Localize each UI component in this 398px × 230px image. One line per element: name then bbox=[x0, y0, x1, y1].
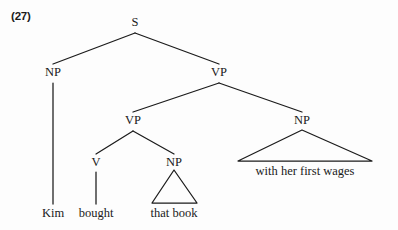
node-label-vp-top: VP bbox=[211, 66, 227, 79]
leaf-leaf-bought: bought bbox=[79, 207, 114, 220]
edge-s-to-vp-top bbox=[135, 33, 219, 64]
edge-vp-top-to-vp-inner bbox=[133, 83, 219, 112]
edge-vp-top-to-np-pp bbox=[219, 83, 302, 112]
node-label-v: V bbox=[91, 156, 100, 169]
triangle-tri-that-book bbox=[152, 170, 197, 203]
edge-vp-inner-to-v bbox=[96, 131, 133, 154]
triangle-tri-with-her-first-wages bbox=[238, 130, 372, 161]
leaf-leaf-kim: Kim bbox=[42, 207, 64, 220]
node-label-np-subj: NP bbox=[45, 66, 61, 79]
node-label-np-obj: NP bbox=[166, 156, 182, 169]
leaf-tri-with-her-first-wages: with her first wages bbox=[256, 165, 355, 178]
node-label-vp-inner: VP bbox=[125, 114, 141, 127]
node-label-np-pp: NP bbox=[294, 114, 310, 127]
tree-edges bbox=[53, 33, 302, 204]
leaf-tri-that-book: that book bbox=[151, 207, 198, 220]
edge-vp-inner-to-np-obj bbox=[133, 131, 174, 154]
edge-s-to-np-subj bbox=[53, 33, 135, 64]
tree-lines bbox=[0, 0, 398, 230]
node-label-s: S bbox=[131, 16, 138, 29]
syntax-tree-figure: (27) SNPVPVPNPVNPKimboughtthat bookwith … bbox=[0, 0, 398, 230]
